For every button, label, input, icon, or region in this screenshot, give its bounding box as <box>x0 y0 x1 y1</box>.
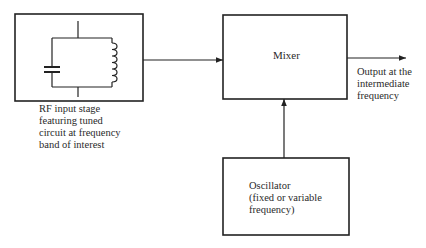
rf-label-line-4: band of interest <box>39 139 121 151</box>
oscillator-label: Oscillator (fixed or variable frequency) <box>249 180 322 216</box>
mixer-label-text: Mixer <box>273 49 300 61</box>
output-label-line-3: frequency <box>357 90 412 102</box>
rf-label-line-1: RF input stage <box>39 103 121 115</box>
rf-input-stage-box <box>15 14 143 101</box>
output-label-line-2: intermediate <box>357 78 412 90</box>
tuned-lc-circuit <box>52 21 112 97</box>
rf-label-line-2: featuring tuned <box>39 115 121 127</box>
output-label-line-1: Output at the <box>357 66 412 78</box>
rf-input-stage-label: RF input stage featuring tuned circuit a… <box>39 103 121 151</box>
oscillator-label-line-3: frequency) <box>249 204 322 216</box>
output-label: Output at the intermediate frequency <box>357 66 412 102</box>
oscillator-label-line-2: (fixed or variable <box>249 192 322 204</box>
mixer-label: Mixer <box>273 49 300 61</box>
oscillator-label-line-1: Oscillator <box>249 180 322 192</box>
rf-label-line-3: circuit at frequency <box>39 127 121 139</box>
inductor-coil-icon <box>112 43 117 82</box>
capacitor-icon <box>44 67 60 72</box>
